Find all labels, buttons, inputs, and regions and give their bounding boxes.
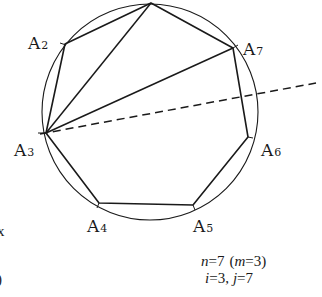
margin-mark-2: ) bbox=[0, 271, 2, 288]
circumcircle bbox=[42, 4, 258, 220]
margin-mark-1: x bbox=[0, 223, 5, 239]
tick-a6 bbox=[248, 137, 253, 138]
label-a4: A4 bbox=[86, 216, 107, 236]
diagonal-a3-a1 bbox=[46, 3, 151, 133]
caption-line-2: i=3,j=7 bbox=[205, 270, 254, 286]
label-a7: A7 bbox=[242, 39, 263, 59]
label-a2: A2 bbox=[27, 33, 48, 53]
caption-line-1: n=7(m=3) bbox=[201, 253, 266, 270]
dashed-line bbox=[40, 83, 316, 134]
label-a3: A3 bbox=[13, 140, 34, 160]
diagonal-a3-a7 bbox=[46, 48, 233, 133]
label-a5: A5 bbox=[192, 216, 213, 236]
tick-a5 bbox=[193, 205, 195, 210]
heptagon-diagram: A2 A3 A4 A5 A6 A7 n=7(m=3) i=3,j=7 x ) bbox=[0, 0, 322, 297]
label-a6: A6 bbox=[260, 140, 281, 160]
